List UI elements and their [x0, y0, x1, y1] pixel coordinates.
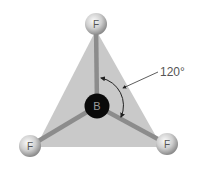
- angle-leader-line: [123, 72, 158, 88]
- fluorine-label-top: F: [93, 19, 99, 30]
- boron-label: B: [93, 100, 100, 112]
- bf3-trigonal-planar-diagram: 120° B F F F: [0, 0, 199, 171]
- fluorine-label-bottom-left: F: [27, 141, 33, 152]
- fluorine-label-bottom-right: F: [164, 139, 170, 150]
- angle-label: 120°: [160, 65, 185, 79]
